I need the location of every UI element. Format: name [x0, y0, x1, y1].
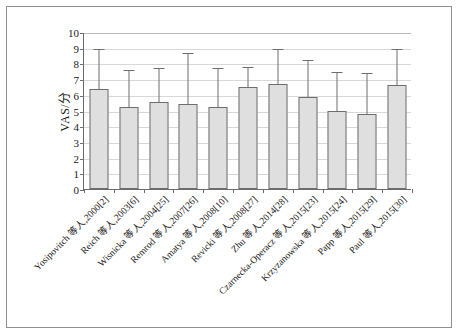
bar[interactable] — [298, 97, 317, 189]
bar[interactable] — [238, 87, 257, 189]
bar[interactable] — [209, 107, 228, 189]
bar[interactable] — [119, 107, 138, 189]
x-tick-mark — [323, 189, 324, 193]
bar[interactable] — [268, 84, 287, 189]
bar[interactable] — [358, 114, 377, 189]
error-bar-cap — [123, 70, 134, 71]
y-axis-title: VAS/分 — [55, 33, 71, 190]
x-tick-mark — [203, 189, 204, 193]
bar-group[interactable] — [263, 33, 293, 189]
error-bar-line — [98, 49, 99, 90]
y-tick-label: 9 — [74, 43, 80, 54]
bars-layer — [84, 33, 411, 189]
bar-group[interactable] — [84, 33, 114, 189]
error-bar-line — [188, 53, 189, 105]
error-bar-line — [158, 68, 159, 103]
bar-group[interactable] — [233, 33, 263, 189]
error-bar-cap — [93, 49, 104, 50]
bar-group[interactable] — [144, 33, 174, 189]
bar-group[interactable] — [382, 33, 412, 189]
bar-group[interactable] — [293, 33, 323, 189]
figure-frame: VAS/分 012345678910 Yosipovitch 等人,2000[2… — [6, 6, 452, 328]
error-bar-cap — [183, 53, 194, 54]
x-tick-mark — [173, 189, 174, 193]
x-tick-mark — [144, 189, 145, 193]
error-bar-line — [218, 68, 219, 108]
error-bar-cap — [242, 67, 253, 68]
error-bar-line — [397, 49, 398, 86]
bar-group[interactable] — [323, 33, 353, 189]
error-bar-cap — [302, 60, 313, 61]
error-bar-line — [307, 60, 308, 98]
bar[interactable] — [89, 89, 108, 189]
bar[interactable] — [328, 111, 347, 190]
error-bar-cap — [362, 73, 373, 74]
bar[interactable] — [149, 102, 168, 189]
y-tick-label: 5 — [74, 106, 80, 117]
y-tick-label: 8 — [74, 59, 80, 70]
y-tick-label: 1 — [74, 169, 80, 180]
x-tick-mark — [263, 189, 264, 193]
error-bar-line — [367, 73, 368, 115]
y-tick-label: 0 — [74, 185, 80, 196]
error-bar-cap — [213, 68, 224, 69]
bar[interactable] — [179, 104, 198, 189]
x-tick-mark — [412, 189, 413, 193]
bar[interactable] — [388, 85, 407, 189]
x-tick-mark — [114, 189, 115, 193]
error-bar-cap — [153, 68, 164, 69]
plot-area: 012345678910 — [83, 33, 411, 190]
error-bar-cap — [272, 49, 283, 50]
bar-group[interactable] — [203, 33, 233, 189]
x-tick-mark — [233, 189, 234, 193]
x-tick-mark — [84, 189, 85, 193]
error-bar-cap — [332, 72, 343, 73]
x-tick-mark — [293, 189, 294, 193]
y-tick-label: 3 — [74, 137, 80, 148]
bar-group[interactable] — [173, 33, 203, 189]
x-tick-label: Paul 等人,2015[30] — [348, 195, 409, 256]
x-tick-mark — [382, 189, 383, 193]
y-tick-label: 2 — [74, 153, 80, 164]
bar-group[interactable] — [352, 33, 382, 189]
error-bar-cap — [392, 49, 403, 50]
y-tick-label: 6 — [74, 90, 80, 101]
error-bar-line — [277, 49, 278, 85]
error-bar-line — [337, 72, 338, 111]
y-tick-label: 10 — [68, 28, 79, 39]
error-bar-line — [247, 67, 248, 88]
error-bar-line — [128, 70, 129, 108]
y-tick-label: 7 — [74, 75, 80, 86]
bar-group[interactable] — [114, 33, 144, 189]
x-tick-mark — [352, 189, 353, 193]
y-tick-label: 4 — [74, 122, 80, 133]
x-axis-labels: Yosipovitch 等人,2000[2]Reich 等人,2003[6]Wi… — [83, 195, 411, 305]
